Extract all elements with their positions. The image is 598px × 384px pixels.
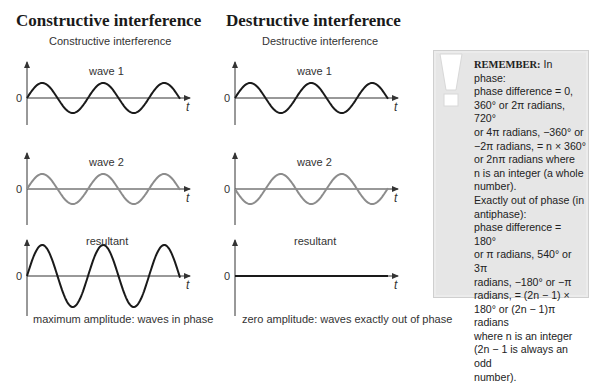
constructive-resultant-plot bbox=[27, 240, 190, 316]
remember-line: radians, = (2n − 1) × bbox=[474, 289, 570, 301]
c-wave2-label: wave 2 bbox=[88, 156, 124, 168]
c-resultant-label: resultant bbox=[86, 235, 128, 247]
remember-line: −2π radians, = n × 360° bbox=[474, 140, 586, 152]
d-t-1: t bbox=[394, 100, 398, 114]
c-zero-3: 0 bbox=[16, 270, 22, 282]
d-wave1-label: wave 1 bbox=[296, 65, 332, 77]
remember-title: REMEMBER: bbox=[474, 59, 541, 70]
destructive-resultant-plot bbox=[235, 240, 398, 316]
d-t-3: t bbox=[394, 278, 398, 292]
remember-line: or π radians, 540° or 3π bbox=[474, 248, 572, 274]
d-zero-3: 0 bbox=[224, 270, 230, 282]
c-wave1-label: wave 1 bbox=[88, 65, 124, 77]
d-zero-1: 0 bbox=[224, 92, 230, 104]
remember-line: (2n − 1 is always an odd bbox=[474, 343, 568, 369]
remember-text: REMEMBER: In phase: phase difference = 0… bbox=[474, 58, 586, 384]
remember-line: Exactly out of phase (in bbox=[474, 194, 584, 206]
c-t-2: t bbox=[186, 191, 190, 205]
c-zero-2: 0 bbox=[16, 183, 22, 195]
remember-line: n is an integer (a whole bbox=[474, 167, 584, 179]
remember-line: radians, −180° or −π bbox=[474, 276, 572, 288]
remember-line: or 2nπ radians where bbox=[474, 153, 575, 165]
c-t-3: t bbox=[186, 278, 190, 292]
c-zero-1: 0 bbox=[16, 92, 22, 104]
remember-line: 180° or (2n − 1)π radians bbox=[474, 303, 555, 329]
remember-line: number). bbox=[474, 371, 516, 383]
remember-line: or 4π radians, −360° or bbox=[474, 126, 584, 138]
remember-line: number). bbox=[474, 180, 516, 192]
exclamation-icon bbox=[436, 52, 466, 108]
destructive-caption: zero amplitude: waves exactly out of pha… bbox=[242, 313, 452, 325]
remember-line: antiphase): bbox=[474, 208, 526, 220]
d-wave2-label: wave 2 bbox=[296, 156, 332, 168]
c-t-1: t bbox=[186, 100, 190, 114]
remember-line: where n is an integer bbox=[474, 330, 572, 342]
d-resultant-label: resultant bbox=[294, 235, 336, 247]
d-zero-2: 0 bbox=[224, 183, 230, 195]
remember-line: phase difference = 0, bbox=[474, 85, 573, 97]
remember-line: phase difference = 180° bbox=[474, 221, 561, 247]
d-t-2: t bbox=[394, 191, 398, 205]
remember-line: 360° or 2π radians, 720° bbox=[474, 99, 565, 125]
constructive-caption: maximum amplitude: waves in phase bbox=[33, 313, 213, 325]
